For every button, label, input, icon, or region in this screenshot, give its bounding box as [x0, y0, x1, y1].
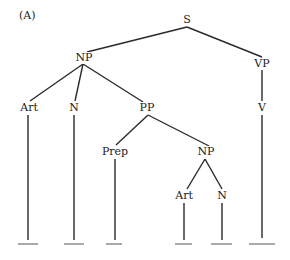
node-n-2: N: [216, 190, 228, 202]
node-s: S: [182, 14, 192, 26]
node-art: Art: [19, 102, 39, 114]
node-np: NP: [74, 52, 93, 64]
node-prep: Prep: [101, 146, 129, 158]
node-n: N: [68, 102, 80, 114]
panel-label: (A): [18, 10, 37, 22]
node-v: V: [257, 102, 267, 114]
node-art-2: Art: [174, 190, 194, 202]
node-pp: PP: [139, 102, 156, 114]
syntax-tree-diagram: (A) S NP VP Art N PP V Prep NP Art N: [0, 0, 290, 260]
node-np-2: NP: [196, 146, 215, 158]
tree-edges: [0, 0, 290, 260]
node-vp: VP: [253, 58, 270, 70]
